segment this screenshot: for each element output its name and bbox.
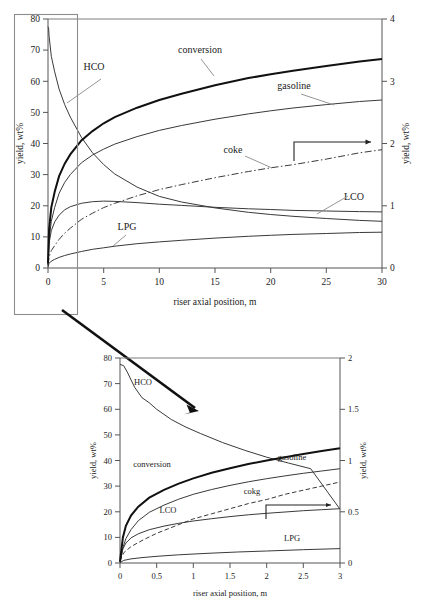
inset-ytick-10: 10: [104, 532, 113, 542]
main-label-conversion: conversion: [178, 44, 222, 55]
inset-y2tick-2: 2: [348, 353, 352, 363]
inset-x-axis-tick-labels: 0 0.5 1 1.5 2 2.5 3: [118, 571, 342, 581]
main-left-axis-ticks: [43, 19, 48, 268]
main-y-axis-title: yield, wt%: [15, 123, 25, 164]
main-coke-axis-arrow: [294, 140, 371, 161]
main-curve-gasoline: [48, 100, 382, 266]
figure-container: 0 10 20 30 40 50 60 70 80 0 1 2 3 4: [0, 0, 425, 608]
main-ytick-80: 80: [31, 14, 41, 24]
inset-label-hco: HCO: [134, 377, 152, 387]
main-ytick-40: 40: [31, 139, 41, 149]
main-y2tick-0: 0: [390, 263, 395, 273]
inset-x-axis-title: riser axial position, m: [193, 588, 268, 598]
inset-chart: 0 10 20 30 40 50 60 70 80 0 0.5 1 1.5 2: [88, 353, 368, 598]
inset-ytick-20: 20: [104, 507, 113, 517]
main-xtick-10: 10: [155, 277, 165, 287]
inset-y-axis-title: yield, wt%: [88, 442, 98, 479]
inset-label-conversion: conversion: [133, 459, 171, 469]
main-right-axis-tick-labels: 0 1 2 3 4: [390, 14, 395, 273]
main-xtick-20: 20: [266, 277, 276, 287]
inset-ytick-0: 0: [108, 558, 112, 568]
main-y2tick-1: 1: [390, 201, 395, 211]
main-y2tick-2: 2: [390, 139, 395, 149]
inset-xtick-2: 2: [265, 571, 269, 581]
inset-curve-lpg: [120, 549, 340, 563]
main-left-axis-tick-labels: 0 10 20 30 40 50 60 70 80: [31, 14, 41, 273]
inset-ytick-50: 50: [104, 430, 113, 440]
main-xtick-15: 15: [210, 277, 220, 287]
main-right-axis-ticks: [382, 19, 387, 268]
main-x-axis-ticks: [48, 268, 382, 273]
inset-y2tick-0.5: 0.5: [348, 507, 359, 517]
inset-right-axis-ticks: [340, 358, 345, 563]
main-xtick-25: 25: [322, 277, 332, 287]
inset-xtick-1.5: 1.5: [225, 571, 236, 581]
inset-y2tick-0: 0: [348, 558, 352, 568]
inset-y2tick-1: 1: [348, 456, 352, 466]
inset-xtick-2.5: 2.5: [298, 571, 309, 581]
inset-ytick-80: 80: [104, 353, 113, 363]
inset-label-coke: cokg: [244, 486, 261, 496]
main-ytick-20: 20: [31, 201, 41, 211]
inset-left-axis-ticks: [115, 358, 120, 563]
main-y2-axis-title: yield, wt%: [401, 123, 411, 164]
inset-ytick-60: 60: [104, 404, 113, 414]
inset-label-gasoline: gasoline: [278, 452, 307, 462]
main-chart: 0 10 20 30 40 50 60 70 80 0 1 2 3 4: [15, 14, 412, 314]
main-label-lpg: LPG: [118, 221, 137, 232]
main-ytick-70: 70: [31, 45, 41, 55]
inset-xtick-0.5: 0.5: [151, 571, 162, 581]
inset-xtick-3: 3: [338, 571, 342, 581]
main-label-gasoline: gasoline: [277, 80, 311, 91]
inset-label-lco: LCO: [160, 505, 177, 515]
inset-curve-gasoline: [120, 469, 340, 563]
main-ytick-0: 0: [35, 263, 40, 273]
main-y2tick-3: 3: [390, 77, 395, 87]
main-label-coke: coke: [224, 144, 243, 155]
main-x-axis-tick-labels: 0 5 10 15 20 25 30: [46, 277, 387, 287]
main-xtick-0: 0: [46, 277, 51, 287]
inset-ytick-30: 30: [104, 481, 113, 491]
inset-curve-hco: [120, 364, 340, 509]
main-curve-lpg: [48, 232, 382, 267]
inset-ytick-70: 70: [104, 379, 113, 389]
zoom-callout-arrow: [62, 310, 199, 415]
main-x-axis-title: riser axial position, m: [174, 297, 257, 307]
main-ytick-10: 10: [31, 232, 41, 242]
inset-y2tick-1.5: 1.5: [348, 404, 359, 414]
main-y2tick-4: 4: [390, 14, 395, 24]
main-ytick-50: 50: [31, 108, 41, 118]
main-ytick-60: 60: [31, 77, 41, 87]
main-label-hco: HCO: [83, 61, 104, 72]
main-curve-conversion: [48, 59, 382, 263]
main-curve-labels: HCO conversion gasoline coke LCO LPG: [67, 44, 364, 246]
inset-ytick-40: 40: [104, 456, 113, 466]
inset-y2-axis-title: yield, wt%: [358, 442, 368, 479]
main-ytick-30: 30: [31, 170, 41, 180]
inset-xtick-1: 1: [191, 571, 195, 581]
main-curve-hco: [48, 27, 382, 222]
inset-x-axis-ticks: [120, 563, 340, 568]
main-xtick-30: 30: [377, 277, 387, 287]
inset-left-axis-tick-labels: 0 10 20 30 40 50 60 70 80: [104, 353, 113, 568]
inset-label-lpg: LPG: [284, 533, 300, 543]
main-xtick-5: 5: [101, 277, 106, 287]
figure-svg: 0 10 20 30 40 50 60 70 80 0 1 2 3 4: [0, 0, 425, 608]
inset-xtick-0: 0: [118, 571, 122, 581]
